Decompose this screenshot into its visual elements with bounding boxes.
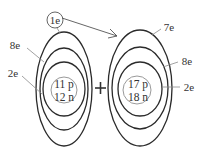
sodium-atom: 11 p 12 n 8e 2e xyxy=(8,32,92,146)
na-8e-label: 8e xyxy=(10,39,21,51)
na-protons: 11 p xyxy=(54,78,74,91)
ionic-bond-diagram: 11 p 12 n 8e 2e 1e 17 p 18 n 7e 8e 2e xyxy=(0,0,205,161)
cl-7e-leader xyxy=(152,29,161,35)
chlorine-atom: 17 p 18 n 7e 8e 2e xyxy=(108,21,194,146)
transfer-electron-label: 1e xyxy=(50,14,61,26)
cl-protons: 17 p xyxy=(128,78,148,91)
na-2e-leader xyxy=(22,76,42,94)
transfer-electron-leader xyxy=(57,28,60,33)
plus-sign xyxy=(95,82,106,94)
na-2e-label: 2e xyxy=(8,67,19,79)
cl-2e-label: 2e xyxy=(184,81,195,93)
cl-7e-label: 7e xyxy=(164,21,175,33)
cl-neutrons: 18 n xyxy=(128,91,148,103)
na-neutrons: 12 n xyxy=(54,91,74,103)
cl-8e-leader xyxy=(163,62,178,67)
cl-8e-label: 8e xyxy=(182,55,193,67)
